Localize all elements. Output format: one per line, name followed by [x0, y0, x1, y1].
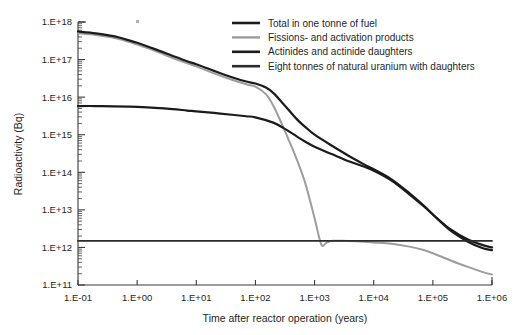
x-tick-label: 1.E+05	[418, 292, 448, 303]
y-tick-label: 1.E+13	[42, 204, 72, 215]
x-tick-label: 1.E+02	[240, 292, 270, 303]
legend-label: Actinides and actinide daughters	[268, 46, 413, 57]
y-tick-label: 1.E+15	[42, 129, 72, 140]
x-tick-label: 1.E+00	[122, 292, 152, 303]
y-tick-label: 1.E+14	[42, 167, 72, 178]
x-tick-label: 1.E+03	[299, 292, 329, 303]
x-tick-label: 1.E+04	[359, 292, 389, 303]
radioactivity-decay-chart: 1.E+111.E+121.E+131.E+141.E+151.E+161.E+…	[0, 0, 517, 335]
chart-canvas: 1.E+111.E+121.E+131.E+141.E+151.E+161.E+…	[0, 0, 517, 335]
y-tick-label: 1.E+16	[42, 92, 72, 103]
x-tick-label: 1.E-01	[64, 292, 92, 303]
legend-label: Total in one tonne of fuel	[268, 18, 377, 29]
x-tick-label: 1.E+06	[477, 292, 507, 303]
y-axis-title: Radioactivity (Bq)	[12, 113, 24, 195]
x-axis-title: Time after reactor operation (years)	[203, 312, 368, 324]
x-tick-label: 1.E+01	[181, 292, 211, 303]
legend-label: Fissions- and activation products	[268, 32, 414, 43]
y-tick-label: 1.E+17	[42, 54, 72, 65]
scan-speckle-artifact	[136, 20, 139, 23]
y-tick-label: 1.E+12	[42, 242, 72, 253]
legend-label: Eight tonnes of natural uranium with dau…	[268, 61, 475, 72]
y-tick-label: 1.E+11	[42, 279, 72, 290]
y-tick-label: 1.E+18	[42, 16, 72, 27]
